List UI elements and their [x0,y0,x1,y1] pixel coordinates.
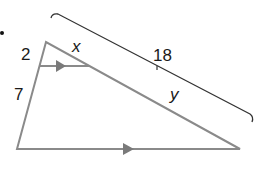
parallel-arrow-icon [56,60,66,72]
main-triangle [17,42,240,149]
label-total: 18 [153,46,172,65]
label-y: y [169,85,180,104]
hypotenuse-bracket [51,14,253,122]
triangle-diagram: 2 7 x 18 y [0,0,270,173]
label-x: x [71,37,81,56]
parallel-arrow-icon [123,143,134,155]
label-lower-left: 7 [14,85,23,104]
bullet-dot [0,31,4,35]
label-upper-left: 2 [21,45,30,64]
